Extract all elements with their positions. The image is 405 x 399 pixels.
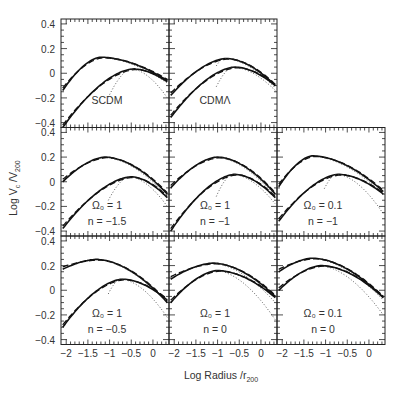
panel-o1-nm0.5: Ω₀ = 1n = −0.5 [61,236,169,345]
panel-o0.1-nm1: Ω₀ = 0.1n = −1 [277,128,385,237]
x-tick-label: −1 [212,348,224,359]
upper-curve-dashed [171,158,276,193]
figure: SCDMCDMΛΩ₀ = 1n = −1.5Ω₀ = 1n = −1Ω₀ = 0… [0,0,405,399]
panel-label-line1: SCDM [92,94,123,106]
panel-label-line2: n = −0.5 [88,323,127,335]
panel-scdm: SCDM [61,19,169,128]
upper-curve-solid [279,156,384,192]
panel-label-line2: n = 0 [311,323,335,335]
x-tick-label: −1.5 [186,348,206,359]
upper-curve-solid [279,258,384,297]
upper-curve-solid [171,59,276,96]
x-tick-label: −1.5 [294,348,314,359]
y-tick-label: 0 [49,68,55,79]
x-tick-label: −0.5 [229,348,249,359]
panels-group: SCDMCDMΛΩ₀ = 1n = −1.5Ω₀ = 1n = −1Ω₀ = 0… [61,19,385,345]
upper-curve-dotted [216,264,275,303]
upper-curve-dashed [279,157,384,191]
y-tick-label: 0 [49,177,55,188]
panel-label-line1: Ω₀ = 0.1 [304,199,343,211]
y-tick-label: −0.2 [35,310,55,321]
panel-label-line2: n = 0 [203,323,227,335]
lower-curve-dashed [279,175,384,219]
panel-label-line1: Ω₀ = 1 [200,199,230,211]
panel-cdm-lambda: CDMΛ [169,19,277,128]
upper-curve-dashed [171,264,276,296]
lower-curve-solid [279,266,384,298]
upper-curve-solid [171,263,276,296]
x-tick-label: 0 [366,348,372,359]
lower-curve-dashed [279,266,384,296]
upper-curve-solid [171,157,276,194]
y-tick-label: 0.4 [41,236,55,247]
y-tick-label: 0.4 [41,127,55,138]
x-tick-label: −2 [169,348,181,359]
panel-o1-nm1.5: Ω₀ = 1n = −1.5 [61,128,169,237]
y-tick-label: 0.2 [41,152,55,163]
x-axis-title: Log Radius /r200 [184,369,258,383]
x-tick-label: −1.5 [78,348,98,359]
x-tick-label: −1 [104,348,116,359]
panel-o0.1-n0: Ω₀ = 0.1n = 0 [277,236,385,345]
y-tick-label: 0.2 [41,261,55,272]
panel-label-line1: Ω₀ = 1 [92,199,122,211]
y-tick-label: 0 [49,285,55,296]
panel-label-line1: Ω₀ = 0.1 [304,307,343,319]
x-tick-label: 0 [150,348,156,359]
x-tick-label: −2 [61,348,73,359]
upper-curve-solid [63,157,168,194]
y-tick-label: −0.4 [35,335,55,346]
panel-o1-nm1: Ω₀ = 1n = −1 [169,128,277,237]
x-tick-label: 0 [258,348,264,359]
panel-label-line2: n = −1 [308,215,338,227]
panel-label-line1: Ω₀ = 1 [200,307,230,319]
upper-curve-dashed [171,59,276,93]
panel-label-line2: n = −1 [200,215,230,227]
y-tick-label: 0.2 [41,44,55,55]
panel-label-line1: CDMΛ [200,94,231,106]
panel-label-line2: n = −1.5 [88,215,127,227]
y-tick-label: 0.4 [41,19,55,30]
x-tick-label: −0.5 [121,348,141,359]
upper-curve-dashed [63,158,168,193]
panel-o1-n0: Ω₀ = 1n = 0 [169,236,277,345]
upper-curve-dotted [108,58,167,83]
x-tick-label: −0.5 [337,348,357,359]
lower-curve-dashed [171,271,276,300]
lower-curve-solid [171,67,276,118]
x-tick-label: −1 [320,348,332,359]
y-axis-title: Log Vc /V200 [7,160,21,216]
panel-label-line1: Ω₀ = 1 [92,307,122,319]
y-tick-label: −0.2 [35,201,55,212]
x-tick-label: −2 [277,348,289,359]
y-tick-label: −0.2 [35,93,55,104]
upper-curve-dotted [324,260,383,300]
